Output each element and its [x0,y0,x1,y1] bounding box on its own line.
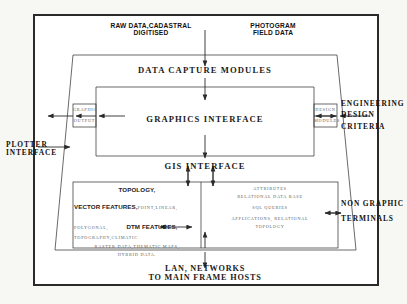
raw-data-line1: RAW DATA,CADASTRAL [86,22,216,29]
attributes-label: ATTRIBUTES [203,186,337,191]
attribute-topology: TOPOLOGY [203,224,337,229]
diagram-canvas: RAW DATA,CADASTRAL DIGITISED PHOTOGRAM F… [0,0,407,304]
photogram-line1: PHOTOGRAM [218,22,328,29]
graphic-output-line2: OUTPUT [73,119,96,124]
raster-thematic-maps: RASTER DATA,THEMATIC MAPS, [74,244,200,249]
vector-point-linear: POINT,LINEAR, [138,205,178,210]
vector-topology: TOPOLOGY, [74,186,200,193]
hybrid-data: HYBRID DATA. [74,252,200,257]
relational-data-base: RELATIONAL DATA BASE [203,194,337,199]
footer-lan-networks: LAN, NETWORKS TO MAIN FRAME HOSTS [115,264,295,282]
raw-data-line2: DIGITISED [86,29,216,36]
terminals-label: TERMINALS [341,215,405,223]
interface-label: INTERFACE [6,149,64,157]
design-modules-box-label: DESIGN MODULES [314,108,337,124]
vector-polygonal: POLYGONAL, [74,225,108,230]
vector-data-column: TOPOLOGY, VECTOR FEATURES,POINT,LINEAR, … [74,186,200,257]
design-modules-line2: MODULES [314,119,337,124]
design-label: DESIGN [341,111,405,119]
engineering-label: ENGINEERING [341,100,405,108]
attribute-data-column: ATTRIBUTES RELATIONAL DATA BASE SQL QUER… [203,186,337,229]
non-graphic-label: NON GRAPHIC [341,200,405,208]
footer-line2: TO MAIN FRAME HOSTS [115,273,295,282]
graphic-output-box-label: GRAPHIC OUTPUT [73,108,96,124]
engineering-design-criteria-label: ENGINEERING DESIGN CRITERIA [341,100,405,131]
applications-relational: APPLICATIONS, RELATIONAL [203,216,337,221]
source-raw-data-label: RAW DATA,CADASTRAL DIGITISED [86,22,216,37]
dtm-features: DTM FEATURES, [126,223,177,230]
source-photogram-label: PHOTOGRAM FIELD DATA [218,22,328,37]
non-graphic-terminals-label: NON GRAPHIC TERMINALS [341,200,405,224]
graphic-output-line1: GRAPHIC [73,108,96,113]
design-modules-line1: DESIGN [314,108,337,113]
layer-graphics-interface: GRAPHICS INTERFACE [105,115,305,125]
layer-data-capture-modules: DATA CAPTURE MODULES [105,66,305,76]
layer-gis-interface: GIS INTERFACE [125,162,285,172]
photogram-line2: FIELD DATA [218,29,328,36]
vector-topography-climatic: TOPOGRAPHY,CLIMATIC [74,235,200,240]
footer-line1: LAN, NETWORKS [115,264,295,273]
vector-features-label: VECTOR FEATURES, [74,203,138,210]
sql-queries: SQL QUERIES [203,205,337,210]
plotter-interface-label: PLOTTER INTERFACE [6,141,64,158]
criteria-label: CRITERIA [341,123,405,131]
